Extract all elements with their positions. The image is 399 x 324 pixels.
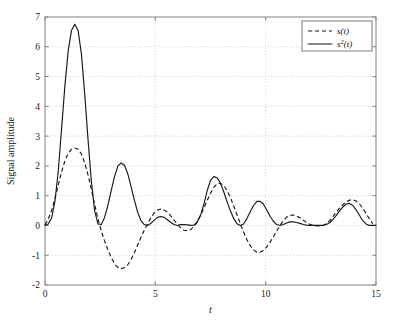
y-tick-label: 0 xyxy=(35,221,40,231)
legend-label: s2(t) xyxy=(337,38,352,49)
x-tick-label: 10 xyxy=(261,289,271,299)
x-tick-label: 0 xyxy=(43,289,48,299)
tick-marks xyxy=(45,17,376,285)
x-axis-title: t xyxy=(209,304,212,315)
x-tick-label: 15 xyxy=(371,289,381,299)
series-line-solid xyxy=(45,24,376,225)
y-axis-title: Signal amplitude xyxy=(5,116,16,185)
figure-container: -2-101234567051015 tSignal amplitude s(t… xyxy=(0,0,399,324)
y-tick-label: 4 xyxy=(35,102,40,112)
chart-canvas: -2-101234567051015 tSignal amplitude s(t… xyxy=(0,0,399,324)
y-tick-label: 3 xyxy=(35,132,40,142)
x-tick-label: 5 xyxy=(153,289,158,299)
plot-frame xyxy=(45,17,376,285)
y-tick-label: -2 xyxy=(32,280,40,290)
axes-frame xyxy=(45,17,376,285)
y-tick-label: -1 xyxy=(32,251,40,261)
y-tick-label: 1 xyxy=(35,191,40,201)
y-tick-label: 5 xyxy=(35,72,40,82)
data-series xyxy=(45,24,376,268)
grid-lines xyxy=(45,17,376,285)
y-tick-label: 7 xyxy=(35,12,40,22)
legend-label: s(t) xyxy=(337,26,349,36)
y-tick-label: 6 xyxy=(35,42,40,52)
tick-labels: -2-101234567051015 xyxy=(32,12,381,298)
y-tick-label: 2 xyxy=(35,161,40,171)
legend[interactable]: s(t)s2(t) xyxy=(302,21,372,51)
